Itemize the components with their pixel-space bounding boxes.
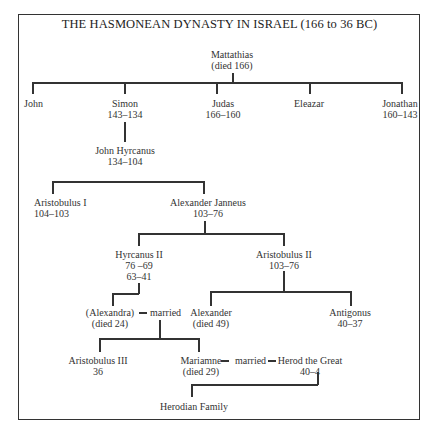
connector-line: [124, 82, 126, 94]
married-label: married: [150, 307, 181, 318]
node-john-hyrcanus: John Hyrcanus 134–104: [95, 145, 155, 167]
node-name: Antigonus: [329, 307, 371, 318]
node-mariamne: Mariamne (died 29): [180, 355, 221, 377]
connector-line: [138, 233, 140, 246]
node-jonathan: Jonathan 160–143: [382, 98, 418, 120]
node-dates: (died 49): [190, 318, 232, 329]
node-name: John Hyrcanus: [95, 145, 155, 156]
connector-line: [232, 73, 234, 82]
node-dates: 166–160: [206, 109, 241, 120]
connector-line: [283, 271, 285, 292]
node-judas: Judas 166–160: [206, 98, 241, 120]
node-dates: (died 24): [86, 318, 134, 329]
node-name: (Alexandra): [86, 307, 134, 318]
node-alexandra: (Alexandra) (died 24): [86, 307, 134, 329]
connector-line: [309, 82, 311, 94]
connector-line: [204, 221, 206, 233]
sibling-line-marriage: [99, 338, 199, 340]
connector-line: [124, 122, 126, 142]
connector-line: [210, 291, 212, 306]
node-dates-2: 63–41: [115, 271, 162, 282]
node-dates: 40–4: [278, 366, 342, 377]
married-label: married: [235, 355, 266, 366]
node-name: Eleazar: [294, 98, 324, 109]
connector-line: [191, 384, 193, 397]
node-dates: (died 166): [211, 60, 253, 71]
node-dates: 40–37: [329, 318, 371, 329]
node-aristobulus-ii: Aristobulus II 103–76: [256, 249, 312, 271]
node-name: Alexander Janneus: [170, 197, 246, 208]
node-eleazar: Eleazar: [294, 98, 324, 109]
node-hyrcanus-ii: Hyrcanus II 76 –69 63–41: [115, 249, 162, 282]
connector-line: [191, 384, 318, 386]
node-dates: 143–134: [108, 109, 143, 120]
connector-line: [350, 291, 352, 306]
connector-line: [159, 320, 161, 338]
connector-line: [203, 181, 205, 194]
node-simon: Simon 143–134: [108, 98, 143, 120]
node-dates: 160–143: [382, 109, 418, 120]
node-dates: 103–76: [170, 208, 246, 219]
node-dates: 103–76: [256, 260, 312, 271]
connector-line: [52, 181, 54, 194]
node-name: John: [24, 98, 43, 109]
node-antigonus: Antigonus 40–37: [329, 307, 371, 329]
node-dates: 36: [68, 366, 127, 377]
node-herod-the-great: Herod the Great 40–4: [278, 355, 342, 377]
sibling-line-janneus: [138, 233, 284, 235]
connector-line: [401, 82, 403, 94]
node-dates: 76 –69: [115, 260, 162, 271]
node-name: Aristobulus I: [34, 197, 87, 208]
marriage-dash: [268, 360, 276, 362]
sibling-line-aristobulus-ii: [210, 291, 351, 293]
node-mattathias: Mattathias (died 166): [211, 49, 253, 71]
node-alexander: Alexander (died 49): [190, 307, 232, 329]
connector-line: [283, 233, 285, 246]
node-name: Aristobulus III: [68, 355, 127, 366]
node-alexander-janneus: Alexander Janneus 103–76: [170, 197, 246, 219]
connector-line: [198, 338, 200, 352]
node-dates: 134–104: [95, 156, 155, 167]
node-dates: 104–103: [34, 208, 87, 219]
node-name: Alexander: [190, 307, 232, 318]
node-name: Herodian Family: [160, 401, 228, 412]
connector-line: [112, 293, 114, 306]
node-herodian-family: Herodian Family: [160, 401, 228, 412]
sibling-line-hyrcanus: [52, 181, 204, 183]
node-name: Judas: [206, 98, 241, 109]
node-name: Herod the Great: [278, 355, 342, 366]
node-name: Mariamne: [180, 355, 221, 366]
marriage-dash: [139, 312, 147, 314]
node-aristobulus-i: Aristobulus I 104–103: [34, 197, 87, 219]
connector-line: [112, 293, 139, 295]
connector-line: [32, 82, 34, 94]
node-john: John: [24, 98, 43, 109]
marriage-dash: [221, 360, 229, 362]
node-name: Mattathias: [211, 49, 253, 60]
connector-line: [216, 82, 218, 94]
node-name: Jonathan: [382, 98, 418, 109]
diagram-title: THE HASMONEAN DYNASTY IN ISRAEL (166 to …: [0, 17, 439, 32]
node-dates: (died 29): [180, 366, 221, 377]
node-name: Aristobulus II: [256, 249, 312, 260]
node-name: Simon: [108, 98, 143, 109]
node-aristobulus-iii: Aristobulus III 36: [68, 355, 127, 377]
node-name: Hyrcanus II: [115, 249, 162, 260]
connector-line: [99, 338, 101, 352]
